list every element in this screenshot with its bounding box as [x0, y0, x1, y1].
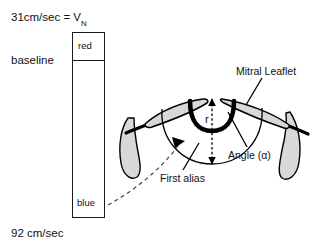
angle-leader-line	[228, 112, 247, 147]
pisa-anatomy-drawing	[0, 0, 325, 252]
mitral-leaflet-label: Mitral Leaflet	[236, 66, 296, 77]
radius-label: r	[205, 114, 209, 126]
left-mitral-leaflet	[145, 99, 208, 128]
first-alias-label: First alias	[160, 173, 205, 184]
mitral-leaflet-leader-line	[246, 78, 262, 105]
figure-canvas: 31cm/sec = VN baseline 92 cm/sec red blu…	[0, 0, 325, 252]
angle-label: Angle (α)	[228, 150, 271, 161]
